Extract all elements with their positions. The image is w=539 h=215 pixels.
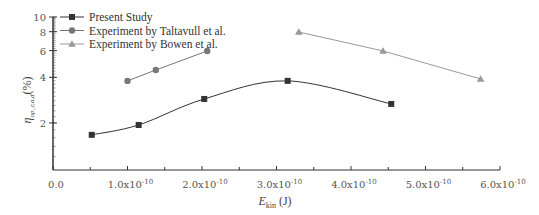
series-circle [124,48,210,84]
x-tick-label: 3.0x10-10 [257,178,303,190]
circle-marker-icon [124,78,130,84]
y-tick-label: 4 [40,72,46,83]
legend-item: Experiment by Taltavull et al. [60,25,226,38]
y-tick-label: 10 [33,12,46,23]
y-tick-label: 6 [40,46,46,57]
x-tick-label: 4.0x10-10 [331,178,377,190]
triangle-marker-icon [295,28,303,35]
square-marker-icon [89,132,95,138]
x-tick-label: 5.0x10-10 [406,178,452,190]
square-marker-icon [201,96,207,102]
circle-marker-icon [153,67,159,73]
y-tick-label: 8 [40,27,46,38]
legend-label: Experiment by Taltavull et al. [89,25,226,38]
square-marker-icon [136,122,142,128]
x-tick-label: 0.0 [48,179,64,190]
x-tick-label: 1.0x10-10 [108,178,154,190]
series-triangle [295,28,484,82]
legend-label: Present Study [89,11,153,24]
x-tick-label: 2.0x10-10 [182,178,228,190]
legend-item: Present Study [60,11,153,24]
square-marker-icon [285,78,291,84]
square-marker-icon [388,101,394,107]
legend-item: Experiment by Bowen et al. [60,38,218,51]
x-axis-title: Ekin (J) [257,194,291,210]
x-tick-label: 6.0x10-10 [480,178,526,190]
square-marker-icon [69,14,75,20]
series-square [89,78,394,138]
y-axis-title: ηop_r,a,d(%) [20,77,36,124]
series-line [128,51,208,81]
legend-label: Experiment by Bowen et al. [89,38,218,51]
series-line [299,32,481,79]
circle-marker-icon [69,27,75,33]
legend: Present StudyExperiment by Taltavull et … [60,11,226,51]
chart: 2468100.01.0x10-102.0x10-103.0x10-104.0x… [0,0,539,215]
y-tick-label: 2 [40,118,46,129]
